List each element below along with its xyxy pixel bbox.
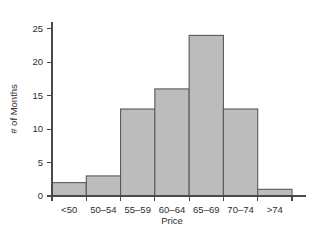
chart-canvas: 0510152025 <5050–5455–5960–6465–6970–74>… xyxy=(0,0,314,237)
y-axis-title: # of Months xyxy=(8,84,19,134)
bar-65–69 xyxy=(189,35,223,196)
bar->74 xyxy=(258,189,292,196)
y-tick-label: 10 xyxy=(32,123,43,134)
bar-50–54 xyxy=(86,176,120,196)
y-tick-label: 25 xyxy=(32,23,43,34)
y-tick-label: 15 xyxy=(32,90,43,101)
x-axis-ticks: <5050–5455–5960–6465–6970–74>74 xyxy=(52,196,292,215)
x-tick-label-<50: <50 xyxy=(61,204,77,215)
y-axis-ticks: 0510152025 xyxy=(32,23,52,201)
x-tick-label-70–74: 70–74 xyxy=(227,204,253,215)
y-tick-label: 0 xyxy=(38,190,43,201)
x-tick-label-50–54: 50–54 xyxy=(90,204,116,215)
x-tick-label-65–69: 65–69 xyxy=(193,204,219,215)
x-tick-label->74: >74 xyxy=(267,204,283,215)
histogram-figure: 0510152025 <5050–5455–5960–6465–6970–74>… xyxy=(0,0,314,237)
bar-<50 xyxy=(52,183,86,196)
bars-group xyxy=(52,35,292,196)
bar-70–74 xyxy=(223,109,257,196)
x-tick-label-60–64: 60–64 xyxy=(159,204,185,215)
y-tick-label: 5 xyxy=(38,157,43,168)
bar-60–64 xyxy=(155,89,189,196)
y-tick-label: 20 xyxy=(32,56,43,67)
x-tick-label-55–59: 55–59 xyxy=(125,204,151,215)
bar-55–59 xyxy=(121,109,155,196)
x-axis-title: Price xyxy=(161,215,183,226)
